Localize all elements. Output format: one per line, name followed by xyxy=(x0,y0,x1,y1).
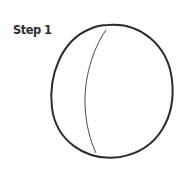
center-guideline xyxy=(85,30,106,153)
head-outline-drawing xyxy=(0,0,185,177)
head-outline xyxy=(51,25,172,158)
